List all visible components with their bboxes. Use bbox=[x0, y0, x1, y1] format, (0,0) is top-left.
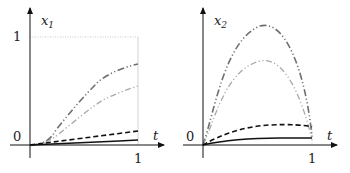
origin-label: 0 bbox=[186, 129, 194, 144]
curve-dashdot-dark bbox=[203, 25, 312, 145]
curve-solid bbox=[203, 138, 312, 145]
y-tick-1: 1 bbox=[13, 29, 21, 44]
y-axis-label: x2 bbox=[214, 13, 227, 30]
x-tick-1: 1 bbox=[134, 151, 142, 166]
x-tick-1: 1 bbox=[308, 151, 316, 166]
origin-label: 0 bbox=[13, 129, 21, 144]
curve-dashdot-light bbox=[30, 86, 138, 145]
y-axis-label: x1 bbox=[41, 13, 54, 30]
curve-dashdot-light bbox=[203, 61, 312, 145]
x-axis-label: t bbox=[327, 128, 333, 143]
left-plot: x1 1 0 t 1 bbox=[10, 8, 164, 166]
right-plot: x2 0 t 1 bbox=[183, 8, 337, 166]
x-axis-label: t bbox=[153, 128, 159, 143]
figure: x1 1 0 t 1 x2 0 t 1 bbox=[0, 0, 350, 173]
